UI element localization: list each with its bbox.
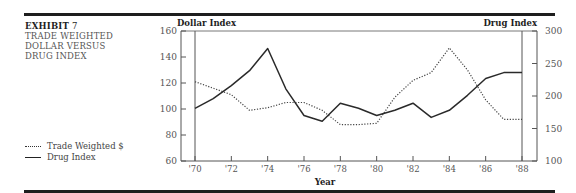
left-tick-label: 120 [160, 78, 177, 88]
data-lines [195, 48, 522, 125]
x-tick-label: '88 [515, 164, 528, 174]
left-axis-title: Dollar Index [177, 18, 237, 28]
x-tick-label: '84 [443, 164, 456, 174]
right-tick-label: 250 [545, 59, 562, 69]
left-tick-label: 60 [166, 156, 178, 166]
right-tick-label: 150 [545, 124, 562, 134]
x-tick-label: '70 [188, 164, 201, 174]
x-tick-label: '86 [479, 164, 492, 174]
axis-ticks: 6080100120140160100150200250300'70'72'74… [160, 26, 563, 174]
left-tick-label: 80 [166, 130, 178, 140]
left-tick-label: 160 [160, 26, 177, 36]
right-tick-label: 200 [545, 91, 562, 101]
plot-frame [181, 31, 537, 161]
right-tick-label: 100 [545, 156, 562, 166]
left-tick-label: 100 [160, 104, 177, 114]
line-chart: Dollar Index Drug Index Year 60801001201… [0, 0, 576, 193]
x-tick-label: '80 [370, 164, 383, 174]
x-tick-label: '72 [225, 164, 238, 174]
x-tick-label: '82 [406, 164, 419, 174]
x-tick-label: '76 [297, 164, 310, 174]
x-tick-label: '78 [334, 164, 347, 174]
right-axis-title: Drug Index [483, 18, 537, 28]
dollar-index-line [195, 48, 522, 125]
right-tick-label: 300 [545, 26, 562, 36]
left-tick-label: 140 [160, 52, 177, 62]
x-axis-title: Year [314, 177, 336, 187]
drug-index-line [195, 49, 522, 122]
x-tick-label: '74 [261, 164, 274, 174]
bottom-rule [24, 190, 555, 193]
